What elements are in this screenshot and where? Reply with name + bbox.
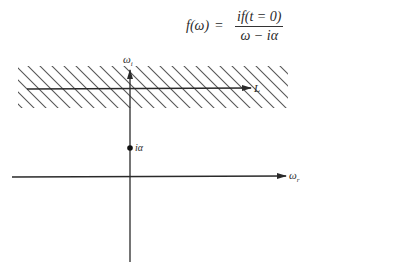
complex-plane-diagram: ωi ωr L iα (0, 0, 415, 272)
contour-l (27, 88, 251, 89)
imag-axis-label: ωi (123, 53, 133, 68)
hatched-region (0, 60, 326, 112)
real-axis (12, 176, 286, 177)
contour-label: L (253, 82, 260, 94)
real-axis-label: ωr (289, 169, 300, 184)
pole-dot (127, 145, 133, 151)
pole-label: iα (135, 142, 144, 153)
